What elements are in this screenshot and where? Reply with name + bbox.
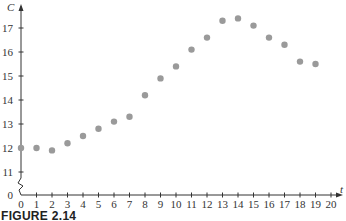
x-tick-label: 13 xyxy=(217,198,229,210)
data-point xyxy=(188,46,194,52)
axis-break-icon xyxy=(18,178,23,195)
y-tick-label: 0 xyxy=(8,189,14,201)
y-axis-ticks: 011121314151617 xyxy=(2,22,24,201)
y-tick-label: 13 xyxy=(2,118,14,130)
data-point xyxy=(95,126,101,132)
data-point xyxy=(111,118,117,124)
y-tick-label: 12 xyxy=(2,142,13,154)
x-tick-label: 10 xyxy=(171,198,183,210)
data-point xyxy=(157,75,163,81)
x-tick-label: 19 xyxy=(310,198,322,210)
x-tick-label: 20 xyxy=(326,198,338,210)
axes xyxy=(18,4,343,198)
y-tick-label: 17 xyxy=(2,22,14,34)
data-point xyxy=(64,140,70,146)
x-tick-label: 8 xyxy=(142,198,148,210)
x-tick-label: 14 xyxy=(233,198,245,210)
data-point xyxy=(312,61,318,67)
scatter-chart: 011121314151617 012345678910111213141516… xyxy=(0,0,346,221)
x-tick-label: 18 xyxy=(295,198,307,210)
x-tick-label: 12 xyxy=(202,198,213,210)
data-point xyxy=(173,63,179,69)
data-point xyxy=(80,133,86,139)
data-point xyxy=(281,42,287,48)
data-points xyxy=(18,15,319,153)
y-axis-arrow-icon xyxy=(19,4,24,11)
data-point xyxy=(49,147,55,153)
x-tick-label: 4 xyxy=(80,198,86,210)
x-tick-label: 17 xyxy=(279,198,291,210)
x-tick-label: 9 xyxy=(158,198,164,210)
y-axis-label: C xyxy=(7,1,15,13)
data-point xyxy=(204,34,210,40)
x-axis-label: t xyxy=(340,183,344,195)
x-tick-label: 16 xyxy=(264,198,276,210)
x-tick-label: 15 xyxy=(248,198,260,210)
x-tick-label: 11 xyxy=(186,198,197,210)
x-tick-label: 5 xyxy=(96,198,102,210)
x-tick-label: 6 xyxy=(111,198,117,210)
data-point xyxy=(250,22,256,28)
figure-caption: FIGURE 2.14 xyxy=(1,209,76,221)
data-point xyxy=(142,92,148,98)
data-point xyxy=(266,34,272,40)
y-tick-label: 11 xyxy=(2,166,13,178)
y-tick-label: 15 xyxy=(2,70,14,82)
y-tick-label: 14 xyxy=(2,94,14,106)
data-point xyxy=(33,145,39,151)
data-point xyxy=(235,15,241,21)
y-tick-label: 16 xyxy=(2,46,14,58)
data-point xyxy=(18,145,24,151)
data-point xyxy=(297,58,303,64)
x-tick-label: 7 xyxy=(127,198,133,210)
data-point xyxy=(126,114,132,120)
data-point xyxy=(219,18,225,24)
